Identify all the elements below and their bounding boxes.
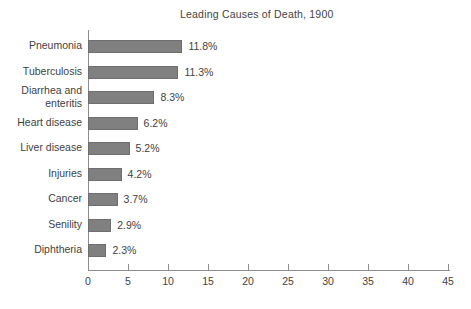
bar-value-label: 2.3%	[112, 243, 136, 257]
x-axis-tick	[448, 264, 449, 270]
x-axis-tick	[248, 264, 249, 270]
bar[interactable]	[88, 91, 154, 104]
x-axis-tick	[168, 264, 169, 270]
category-label: Cancer	[0, 192, 82, 205]
bar-row: 11.3%	[88, 66, 238, 79]
bar-value-label: 8.3%	[160, 90, 184, 104]
bar-chart-figure: Leading Causes of Death, 1900 PneumoniaT…	[0, 0, 471, 309]
category-label: Tuberculosis	[0, 65, 82, 78]
x-axis-tick-label: 30	[313, 275, 343, 287]
bar[interactable]	[88, 66, 178, 79]
x-axis-tick-label: 15	[193, 275, 223, 287]
bar[interactable]	[88, 117, 138, 130]
category-label: Diphtheria	[0, 243, 82, 256]
bar-row: 8.3%	[88, 91, 214, 104]
x-axis-tick-label: 10	[153, 275, 183, 287]
bar[interactable]	[88, 219, 111, 232]
chart-title: Leading Causes of Death, 1900	[180, 8, 460, 20]
x-axis-tick	[408, 264, 409, 270]
bar[interactable]	[88, 142, 130, 155]
x-axis-tick	[368, 264, 369, 270]
bar-value-label: 2.9%	[117, 218, 141, 232]
x-axis-tick-label: 20	[233, 275, 263, 287]
category-label: Pneumonia	[0, 39, 82, 52]
bar[interactable]	[88, 193, 118, 206]
x-axis-tick-label: 5	[113, 275, 143, 287]
x-axis-tick-label: 40	[393, 275, 423, 287]
bar-row: 6.2%	[88, 117, 198, 130]
bar-value-label: 6.2%	[144, 116, 168, 130]
bar[interactable]	[88, 168, 122, 181]
category-label: Heart disease	[0, 116, 82, 129]
x-axis-tick-label: 0	[73, 275, 103, 287]
category-label: Diarrhea and enteritis	[0, 84, 82, 109]
x-axis-tick	[128, 264, 129, 270]
x-axis-line	[88, 270, 450, 271]
x-axis-tick-label: 45	[433, 275, 463, 287]
x-axis-tick-label: 35	[353, 275, 383, 287]
bar-row: 2.3%	[88, 244, 166, 257]
bar-value-label: 5.2%	[136, 141, 160, 155]
category-label: Injuries	[0, 167, 82, 180]
bar[interactable]	[88, 244, 106, 257]
bar-row: 5.2%	[88, 142, 190, 155]
plot-area: 11.8%11.3%8.3%6.2%5.2%4.2%3.7%2.9%2.3%	[88, 30, 448, 270]
x-axis-tick	[88, 264, 89, 270]
bar[interactable]	[88, 40, 182, 53]
bar-value-label: 4.2%	[128, 167, 152, 181]
bar-row: 11.8%	[88, 40, 242, 53]
bar-value-label: 3.7%	[124, 192, 148, 206]
x-axis-tick	[328, 264, 329, 270]
x-axis-tick	[208, 264, 209, 270]
category-axis-labels: PneumoniaTuberculosisDiarrhea and enteri…	[0, 30, 82, 270]
category-label: Senility	[0, 218, 82, 231]
bar-value-label: 11.8%	[188, 39, 217, 53]
x-axis-tick	[288, 264, 289, 270]
bar-value-label: 11.3%	[184, 65, 213, 79]
bar-row: 3.7%	[88, 193, 178, 206]
category-label: Liver disease	[0, 141, 82, 154]
x-axis-tick-label: 25	[273, 275, 303, 287]
bar-row: 2.9%	[88, 219, 171, 232]
bar-row: 4.2%	[88, 168, 182, 181]
